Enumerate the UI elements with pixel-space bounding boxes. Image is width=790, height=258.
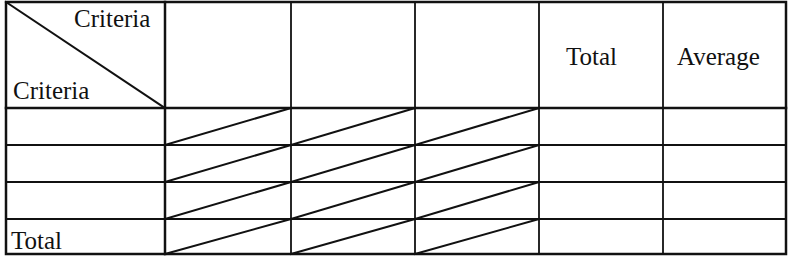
- criteria-matrix-grid: [0, 0, 790, 258]
- corner-top-criteria-label: Criteria: [74, 6, 150, 31]
- corner-bottom-criteria-label: Criteria: [13, 78, 89, 103]
- column-header-average: Average: [677, 44, 760, 69]
- row-header-total: Total: [11, 228, 62, 253]
- column-header-total: Total: [566, 44, 617, 69]
- struck-cells: [165, 108, 539, 254]
- table-border: [6, 2, 786, 254]
